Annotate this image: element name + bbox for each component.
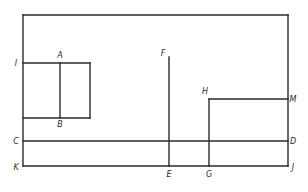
label-F: F: [161, 49, 166, 58]
label-G: G: [206, 170, 212, 179]
label-K: K: [13, 163, 19, 172]
label-H: H: [202, 87, 208, 96]
line-segments: [23, 15, 288, 166]
label-E: E: [166, 170, 172, 179]
point-labels: A B C D E F G H I J K M: [13, 49, 296, 179]
label-M: M: [290, 95, 297, 104]
geometry-diagram: A B C D E F G H I J K M: [0, 0, 308, 192]
label-A: A: [56, 51, 62, 60]
label-C: C: [13, 137, 19, 146]
label-D: D: [290, 137, 296, 146]
label-B: B: [57, 120, 63, 129]
label-I: I: [15, 59, 18, 68]
label-J: J: [290, 163, 295, 172]
